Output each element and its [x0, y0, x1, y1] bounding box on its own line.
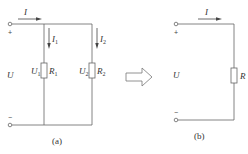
label-u-a: U — [7, 70, 14, 80]
terminal-minus-a — [8, 123, 12, 127]
label-u1: U1 — [31, 66, 41, 77]
label-r1: R1 — [48, 66, 58, 77]
arrow-head-icon — [216, 17, 222, 20]
terminal-plus-a — [8, 22, 12, 26]
resistor-r2 — [89, 63, 95, 78]
label-minus-b: − — [174, 109, 178, 116]
terminal-plus-b — [174, 22, 178, 26]
arrow-head-icon — [95, 43, 98, 49]
current-arrows-a — [18, 17, 99, 49]
resistor-r — [231, 68, 237, 83]
label-i-total: I — [23, 7, 28, 17]
current-arrow-b — [198, 17, 222, 20]
caption-b: (b) — [194, 131, 205, 141]
label-i2: I2 — [99, 34, 106, 45]
label-plus-a: + — [8, 29, 12, 36]
label-r: R — [239, 71, 246, 81]
equivalent-resistance-diagram: I + U − I1 I2 U1 R1 U2 R2 (a) I + U − R … — [0, 0, 248, 154]
figure-b-equivalent-circuit — [174, 22, 237, 122]
label-plus-b: + — [174, 29, 178, 36]
label-r2: R2 — [96, 66, 106, 77]
hollow-right-arrow-icon — [126, 68, 152, 86]
label-u2: U2 — [79, 66, 89, 77]
label-i-b: I — [204, 7, 209, 17]
caption-a: (a) — [52, 136, 62, 146]
label-u-b: U — [173, 70, 180, 80]
label-i1: I1 — [51, 34, 58, 45]
arrow-head-icon — [47, 43, 50, 49]
resistor-r1 — [41, 63, 47, 78]
terminal-minus-b — [174, 118, 178, 122]
label-minus-a: − — [8, 114, 12, 121]
arrow-head-icon — [36, 17, 42, 20]
